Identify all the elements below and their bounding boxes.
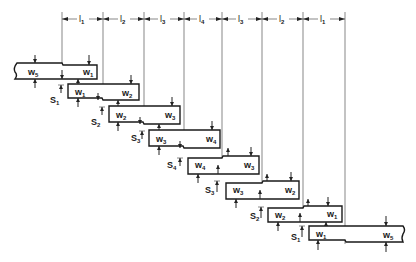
segment-0: w5 w1 [14, 55, 97, 88]
offset-label-3: S3 [131, 133, 141, 144]
offset-label-6: S2 [250, 211, 260, 222]
segment-2: w2 w3 S2 [91, 97, 180, 131]
offset-label-1: S1 [50, 95, 60, 106]
offset-label-2: S2 [91, 117, 101, 128]
segment-3: w3 w4 S3 [131, 121, 220, 155]
segment-5: w3 w2 S3 [205, 172, 299, 208]
offset-label-4: S4 [167, 160, 177, 171]
stepped-beam-diagram: l1 l2 l3 l4 l3 l2 l1 w5 w1 w1 w2 [0, 0, 416, 262]
segment-1: w1 w2 S1 [50, 75, 139, 107]
segment-4: w4 w3 S4 [167, 147, 259, 183]
offset-label-7: S1 [291, 232, 301, 243]
offset-label-5: S3 [205, 185, 215, 196]
